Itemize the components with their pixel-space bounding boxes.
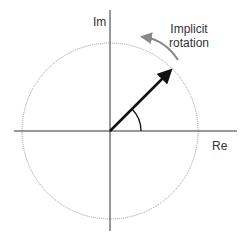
angle-arc xyxy=(132,109,141,131)
rotation-annotation-line1: Implicit xyxy=(168,22,210,36)
real-axis-label: Re xyxy=(212,139,227,153)
rotation-annotation: Implicit rotation xyxy=(168,22,210,50)
rotation-annotation-line2: rotation xyxy=(168,36,210,50)
imaginary-axis-label: Im xyxy=(93,15,106,29)
phasor-diagram xyxy=(0,0,249,237)
